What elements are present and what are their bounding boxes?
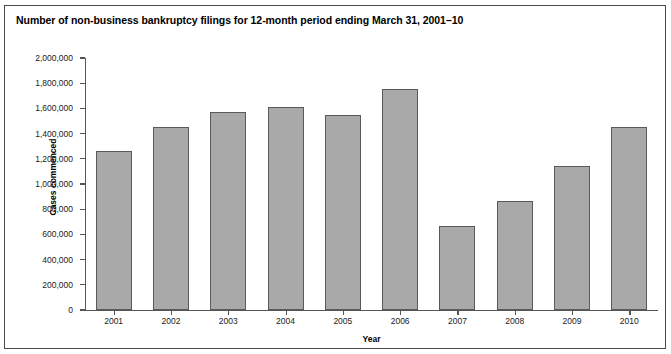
x-axis-tick-label: 2002: [142, 316, 199, 326]
x-axis-tick-label: 2001: [85, 316, 142, 326]
bar-2009[interactable]: [554, 166, 590, 310]
bar-2002[interactable]: [153, 127, 189, 310]
chart-figure: Number of non-business bankruptcy filing…: [0, 0, 671, 354]
x-axis-tick-mark: [114, 310, 115, 315]
bar-slot: [486, 58, 543, 310]
y-axis-tick-label: 1,800,000: [35, 78, 73, 88]
x-axis-tick-mark: [171, 310, 172, 315]
bar-slot: [371, 58, 428, 310]
x-axis-tick-mark: [343, 310, 344, 315]
bar-slot: [543, 58, 600, 310]
y-axis-tick-label: 1,600,000: [35, 103, 73, 113]
y-axis-tick-label: 1,000,000: [35, 179, 73, 189]
bar-2001[interactable]: [96, 151, 132, 310]
x-axis-tick-mark: [515, 310, 516, 315]
x-axis-tick-mark: [629, 310, 630, 315]
y-axis-tick-label: 1,400,000: [35, 129, 73, 139]
x-axis-tick-mark: [400, 310, 401, 315]
x-axis-tick-label: 2008: [486, 316, 543, 326]
x-axis-tick-label: 2004: [257, 316, 314, 326]
x-axis-title: Year: [85, 334, 658, 344]
x-axis-tick-label: 2003: [200, 316, 257, 326]
y-axis-tick-label: 400,000: [42, 255, 73, 265]
x-axis-tick-mark: [228, 310, 229, 315]
x-axis-tick-mark: [572, 310, 573, 315]
y-axis-tick-label: 800,000: [42, 204, 73, 214]
y-axis-tick-label: 0: [68, 305, 73, 315]
bar-slot: [601, 58, 658, 310]
x-axis-tick-label: 2005: [314, 316, 371, 326]
chart-title: Number of non-business bankruptcy filing…: [16, 14, 463, 26]
bar-2003[interactable]: [210, 112, 246, 310]
y-axis-tick-label: 600,000: [42, 229, 73, 239]
y-axis-tick-label: 1,200,000: [35, 154, 73, 164]
bar-2005[interactable]: [325, 115, 361, 310]
bar-2004[interactable]: [268, 107, 304, 310]
bar-slot: [429, 58, 486, 310]
bar-slot: [257, 58, 314, 310]
bar-2010[interactable]: [611, 127, 647, 310]
bar-2006[interactable]: [382, 89, 418, 310]
x-axis-tick-label: 2009: [543, 316, 600, 326]
x-axis-tick-label: 2006: [371, 316, 428, 326]
bar-slot: [314, 58, 371, 310]
y-axis-tick-label: 200,000: [42, 280, 73, 290]
x-axis-tick-label: 2010: [601, 316, 658, 326]
x-axis-tick-labels: 2001200220032004200520062007200820092010: [85, 316, 658, 326]
x-axis-tick-mark: [286, 310, 287, 315]
bar-slot: [85, 58, 142, 310]
y-axis-tick-label: 2,000,000: [35, 53, 73, 63]
bar-slot: [142, 58, 199, 310]
bar-series: [85, 58, 658, 310]
bar-slot: [200, 58, 257, 310]
bar-2008[interactable]: [497, 201, 533, 310]
x-axis-tick-mark: [457, 310, 458, 315]
x-axis-tick-label: 2007: [429, 316, 486, 326]
bar-2007[interactable]: [439, 226, 475, 310]
